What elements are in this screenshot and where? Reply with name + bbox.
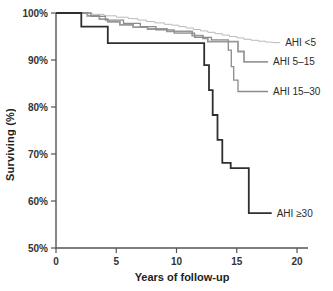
y-tick-label-50%: 50% xyxy=(28,243,48,254)
legend-label-AHI-≥30: AHI ≥30 xyxy=(277,208,313,219)
y-tick-label-80%: 80% xyxy=(28,102,48,113)
y-tick-label-60%: 60% xyxy=(28,196,48,207)
survival-curve-AHI-15–30 xyxy=(56,13,268,92)
survival-curve-figure: 100%90%80%70%60%50%05101520AHI <5AHI 5–1… xyxy=(0,0,333,291)
x-tick-label-5: 5 xyxy=(113,256,119,267)
x-tick-label-0: 0 xyxy=(53,256,59,267)
x-tick-label-10: 10 xyxy=(171,256,183,267)
y-tick-label-90%: 90% xyxy=(28,55,48,66)
y-tick-label-100%: 100% xyxy=(22,8,48,19)
x-tick-label-20: 20 xyxy=(291,256,303,267)
legend-label-AHI-<5: AHI <5 xyxy=(285,37,316,48)
x-axis-title: Years of follow-up xyxy=(56,271,308,283)
x-tick-label-15: 15 xyxy=(231,256,243,267)
survival-curve-AHI-≥30 xyxy=(56,13,272,213)
legend-label-AHI-5–15: AHI 5–15 xyxy=(273,56,315,67)
y-tick-label-70%: 70% xyxy=(28,149,48,160)
y-axis-title: Surviving (%) xyxy=(3,55,17,235)
chart-canvas: 100%90%80%70%60%50%05101520AHI <5AHI 5–1… xyxy=(0,0,333,291)
survival-curve-AHI-5–15 xyxy=(56,13,268,62)
survival-curve-AHI-<5 xyxy=(56,13,280,43)
legend-label-AHI-15–30: AHI 15–30 xyxy=(273,86,321,97)
